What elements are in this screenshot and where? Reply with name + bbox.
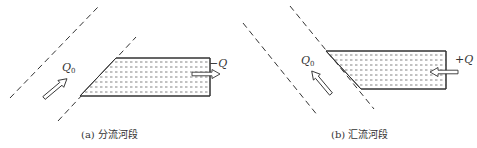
caption-a: (a) 分流河段 bbox=[81, 126, 138, 141]
branch-inflow-label: +Q bbox=[455, 53, 473, 66]
main-flow-label-b: Q0 bbox=[301, 54, 315, 68]
main-flow-label-a: Q0 bbox=[62, 61, 76, 75]
main-flow-arrow-icon-b bbox=[308, 68, 334, 97]
river-bank-left-b bbox=[243, 23, 318, 116]
caption-b: (b) 汇流河段 bbox=[331, 126, 388, 141]
panel-b-confluence: Q0 +Q bbox=[243, 6, 473, 116]
branch-channel-a bbox=[70, 58, 210, 96]
river-bank-left-a bbox=[10, 7, 98, 98]
branch-channel-b bbox=[320, 51, 446, 89]
river-junction-diagram: Q0 −Q Q0 bbox=[0, 0, 477, 148]
main-flow-arrow-icon-a bbox=[41, 75, 70, 101]
panel-a-diversion: Q0 −Q bbox=[10, 7, 227, 121]
branch-outflow-label: −Q bbox=[209, 57, 227, 70]
